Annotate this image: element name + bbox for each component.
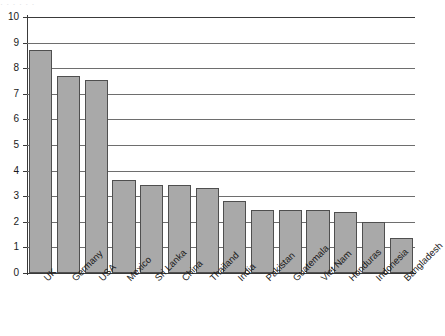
y-tick-label: 7	[0, 89, 19, 99]
bar	[112, 180, 135, 273]
bar	[251, 210, 274, 273]
x-axis-category-labels: UKGermanyUSAMexicoSri LankaChinaThailand…	[27, 276, 427, 336]
y-tick-label: 10	[0, 12, 19, 22]
y-tick-label: 6	[0, 114, 19, 124]
y-tick-label: 9	[0, 38, 19, 48]
y-tick-label: 1	[0, 242, 19, 252]
y-tick-label: 5	[0, 140, 19, 150]
y-tick-label: 8	[0, 63, 19, 73]
y-tick-label: 4	[0, 166, 19, 176]
y-tick-mark	[23, 273, 27, 274]
bar-series	[27, 17, 415, 273]
y-tick-label: 2	[0, 217, 19, 227]
y-tick-label: 0	[0, 268, 19, 278]
bar	[85, 80, 108, 273]
bar	[57, 76, 80, 273]
top-crop-artifact: · · · · · ·	[0, 0, 438, 8]
y-tick-label: 3	[0, 191, 19, 201]
bar	[29, 50, 52, 273]
